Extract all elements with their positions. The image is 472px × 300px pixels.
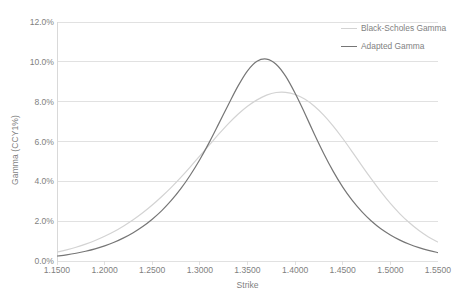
- plot-svg: [57, 22, 438, 267]
- y-tick-label: 6.0%: [18, 137, 54, 147]
- y-tick-label: 4.0%: [18, 176, 54, 186]
- chart-legend: Black-Scholes GammaAdapted Gamma: [341, 20, 469, 56]
- y-tick-label: 8.0%: [18, 97, 54, 107]
- gamma-line-chart: Gamma (CCY1%) 0.0%2.0%4.0%6.0%8.0%10.0%1…: [0, 0, 472, 300]
- legend-item[interactable]: Adapted Gamma: [341, 38, 469, 54]
- plot-area: [57, 22, 438, 261]
- y-tick-label: 10.0%: [18, 57, 54, 67]
- legend-line-icon: [341, 28, 357, 29]
- legend-item-label: Adapted Gamma: [361, 41, 424, 51]
- legend-line-icon: [341, 46, 357, 47]
- series-line-1: [57, 59, 438, 256]
- x-axis-title: Strike: [57, 279, 438, 291]
- x-tick-label: 1.5500: [408, 264, 468, 276]
- y-axis-tick-labels: 0.0%2.0%4.0%6.0%8.0%10.0%12.0%: [14, 0, 54, 300]
- legend-item-label: Black-Scholes Gamma: [361, 23, 446, 33]
- y-tick-label: 2.0%: [18, 216, 54, 226]
- legend-item[interactable]: Black-Scholes Gamma: [341, 20, 469, 36]
- x-axis-tick-labels: 1.15001.20001.25001.30001.35001.40001.45…: [0, 264, 472, 280]
- y-tick-label: 12.0%: [18, 17, 54, 27]
